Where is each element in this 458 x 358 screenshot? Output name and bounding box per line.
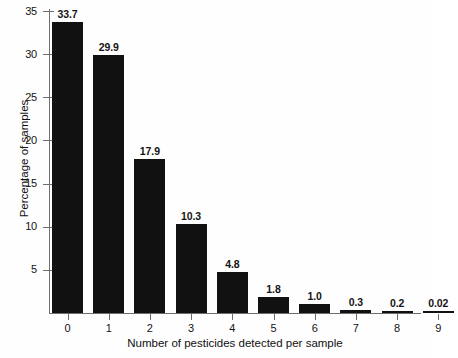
x-axis-tick-label: 5 (259, 323, 289, 334)
bar (93, 55, 124, 313)
x-axis-tick (315, 314, 316, 320)
bar (176, 224, 207, 313)
x-axis-tick-label: 1 (94, 323, 124, 334)
x-axis-tick-label: 8 (382, 323, 412, 334)
bar-value-label: 29.9 (88, 42, 130, 53)
x-axis-tick (397, 314, 398, 320)
bar (299, 304, 330, 313)
x-axis-tick-label: 0 (53, 323, 83, 334)
bar (258, 297, 289, 313)
x-axis-tick-label: 3 (176, 323, 206, 334)
bar-value-label: 17.9 (129, 146, 171, 157)
x-axis-tick (109, 314, 110, 320)
bar (423, 311, 454, 314)
x-axis-tick (150, 314, 151, 320)
x-axis-line (49, 313, 421, 314)
bar-value-label: 0.3 (335, 297, 377, 308)
x-axis-tick (356, 314, 357, 320)
y-axis-tick-label: 35 (11, 6, 37, 17)
bar-value-label: 0.2 (376, 298, 418, 309)
x-axis-tick-label: 9 (423, 323, 453, 334)
x-axis-tick (274, 314, 275, 320)
x-axis-tick-label: 7 (341, 323, 371, 334)
bar (382, 311, 413, 314)
bar (340, 310, 371, 313)
x-axis-tick (191, 314, 192, 320)
y-axis-title: Percentage of samples (18, 49, 31, 269)
bar-value-label: 1.8 (253, 284, 295, 295)
x-axis-title: Number of pesticides detected per sample (49, 337, 421, 350)
bar (134, 159, 165, 313)
x-axis-tick-label: 2 (135, 323, 165, 334)
x-axis-tick (438, 314, 439, 320)
x-axis-tick (68, 314, 69, 320)
x-axis-tick-label: 6 (300, 323, 330, 334)
x-axis-tick (232, 314, 233, 320)
bar-value-label: 33.7 (47, 9, 89, 20)
bar-value-label: 1.0 (294, 291, 336, 302)
bar (217, 272, 248, 313)
bar-value-label: 0.02 (417, 298, 458, 309)
x-axis-tick-label: 4 (217, 323, 247, 334)
bar (52, 22, 83, 313)
bar-value-label: 10.3 (170, 211, 212, 222)
bar-value-label: 4.8 (211, 259, 253, 270)
